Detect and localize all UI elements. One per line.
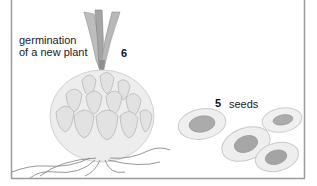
germination-label: germination of a new plant — [19, 34, 88, 58]
shoot-icon — [84, 10, 120, 72]
seeds-label: seeds — [229, 98, 258, 110]
germination-label-line2: of a new plant — [19, 46, 88, 58]
illustration-panel: germination of a new plant 6 5 seeds — [0, 0, 317, 186]
plant-illustration — [0, 0, 317, 186]
germination-label-line1: germination — [19, 34, 88, 46]
label-number-6: 6 — [121, 47, 127, 59]
seeds-icon — [176, 105, 304, 177]
bulb-icon — [50, 70, 154, 162]
label-number-5: 5 — [215, 97, 221, 109]
